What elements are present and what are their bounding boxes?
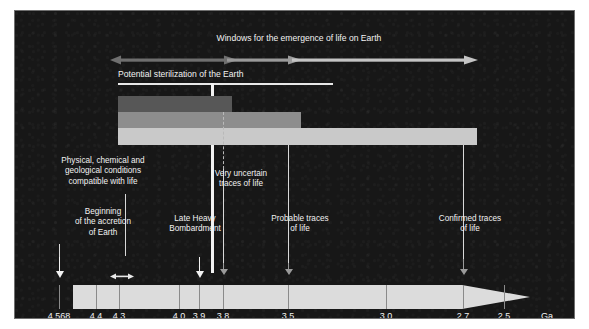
sterilization-rule <box>118 83 333 85</box>
guide-dashed-3-8 <box>223 112 224 169</box>
arrow-confirmed <box>459 259 468 275</box>
tick-4-4 <box>96 285 97 309</box>
tick-label-3-8: 3.8 <box>209 311 237 319</box>
guide-line-confirmed <box>463 145 464 263</box>
window-bar-1 <box>118 96 232 112</box>
label-very-uncertain-traces: Very uncertain traces of life <box>195 169 287 190</box>
tick-3-0 <box>386 285 387 309</box>
arrow-very-uncertain <box>219 263 228 275</box>
tick-label-2-5: 2.5 <box>490 311 518 319</box>
tick-label-4-568: 4.568 <box>39 311 79 319</box>
sterilization-title: Potential sterilization of the Earth <box>118 69 368 79</box>
emergence-window-arrow <box>110 54 478 66</box>
tick-4-568 <box>59 285 60 309</box>
label-confirmed-traces: Confirmed traces of life <box>415 214 525 235</box>
tick-3-5 <box>288 285 289 309</box>
timeline-figure-panel: Windows for the emergence of life on Ear… <box>14 10 575 319</box>
tick-2-7 <box>463 285 464 309</box>
emergence-window-title: Windows for the emergence of life on Ear… <box>119 33 479 43</box>
tick-2-5 <box>504 285 505 309</box>
tick-4-0 <box>179 285 180 309</box>
arrow-accretion <box>55 257 64 278</box>
tick-label-3-0: 3.0 <box>372 311 400 319</box>
label-late-heavy-bombardment: Late Heavy Bombardment <box>147 214 243 235</box>
tick-4-3 <box>119 285 120 309</box>
arrow-conditions-range <box>110 273 134 280</box>
figure-canvas: Windows for the emergence of life on Ear… <box>0 0 589 329</box>
window-bar-2 <box>118 112 301 128</box>
timeline-axis-bar <box>73 285 462 309</box>
tick-label-4-3: 4.3 <box>105 311 133 319</box>
tick-3-8 <box>223 285 224 309</box>
label-probable-traces: Probable traces of life <box>247 214 353 235</box>
guide-line-probable <box>288 145 289 263</box>
timeline-axis-arrowhead <box>462 285 530 309</box>
tick-3-9 <box>199 285 200 309</box>
arrow-probable <box>284 263 293 275</box>
arrow-late-heavy-bombardment <box>195 257 204 278</box>
axis-unit-label: Ga <box>533 311 561 319</box>
window-bar-3 <box>118 128 477 145</box>
tick-label-2-7: 2.7 <box>449 311 477 319</box>
tick-label-3-5: 3.5 <box>274 311 302 319</box>
label-conditions-compatible: Physical, chemical and geological condit… <box>29 156 177 187</box>
